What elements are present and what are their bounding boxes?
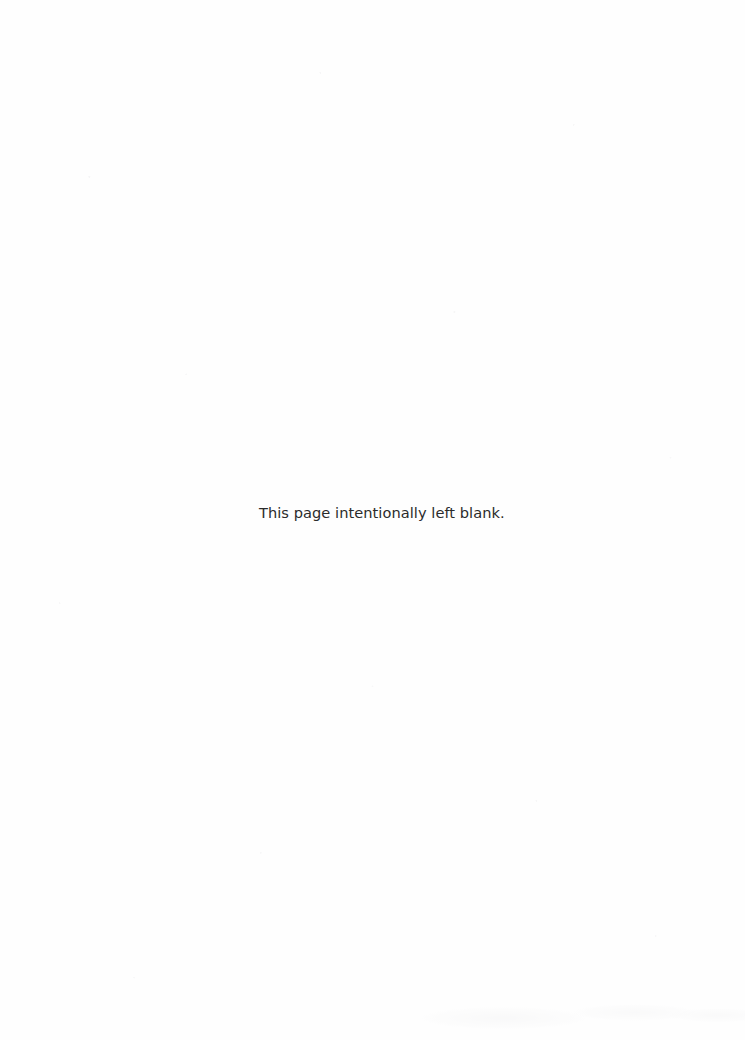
- document-page: This page intentionally left blank.: [0, 0, 745, 1040]
- scan-smudge-artifact: [400, 985, 745, 1040]
- blank-page-notice-text: This page intentionally left blank.: [259, 503, 505, 523]
